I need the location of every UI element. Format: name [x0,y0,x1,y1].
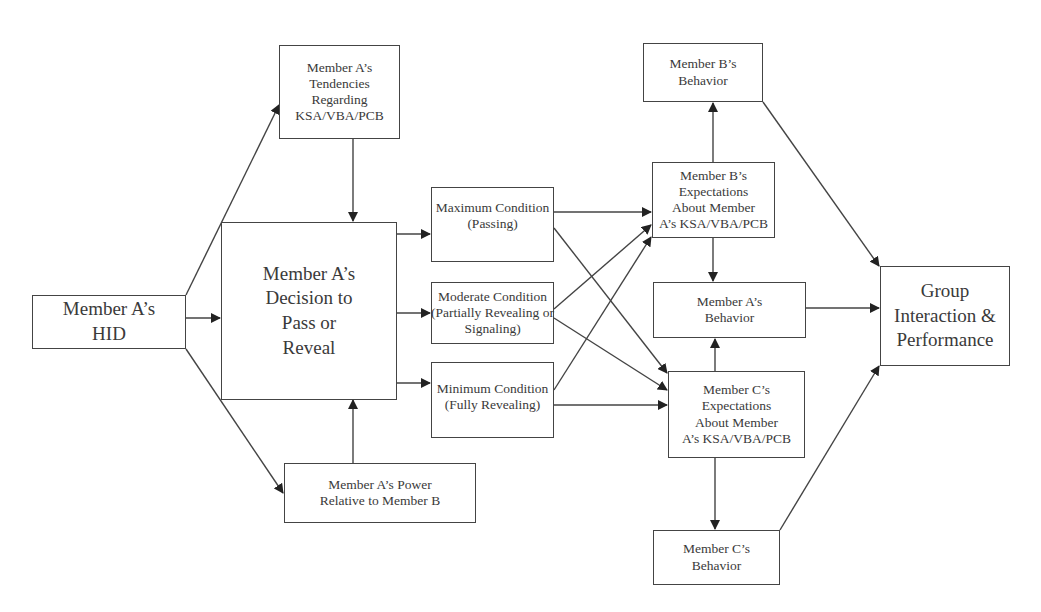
node-b-exp-line: Expectations [679,184,749,200]
edge-moderate-cexp [554,318,667,390]
edge-moderate-bexp [554,225,651,309]
node-c-behavior: Member C’s Behavior [653,530,780,585]
node-tendencies-line: Tendencies [309,76,370,92]
node-group: Group Interaction & Performance [880,266,1010,366]
node-moderate-line: (Partially Revealing or [431,305,554,321]
node-b-exp-line: Member B’s [680,168,747,184]
edge-min-bexp [554,237,651,390]
node-hid: Member A’s HID [32,295,186,349]
node-b-exp-line: About Member [672,200,755,216]
node-moderate-line: Signaling) [464,321,520,337]
node-tendencies: Member A’s Tendencies Regarding KSA/VBA/… [279,45,400,139]
node-b-behavior-line: Behavior [678,73,728,89]
node-power-line: Member A’s Power [328,477,432,493]
node-b-exp-line: A’s KSA/VBA/PCB [659,216,768,232]
node-b-behavior: Member B’s Behavior [643,43,763,102]
node-tendencies-line: KSA/VBA/PCB [295,108,384,124]
node-b-expectations: Member B’s Expectations About Member A’s… [652,162,775,238]
node-tendencies-line: Regarding [311,92,367,108]
node-hid-line: Member A’s [63,297,155,322]
node-decision-line: Decision to [265,286,352,311]
node-moderate-line: Moderate Condition [438,289,547,305]
node-decision-line: Pass or [282,311,336,336]
node-group-line: Performance [896,328,993,353]
node-hid-line: HID [92,322,126,347]
node-c-exp-line: A’s KSA/VBA/PCB [682,431,791,447]
node-c-expectations: Member C’s Expectations About Member A’s… [668,371,805,458]
node-c-exp-line: Member C’s [703,382,770,398]
node-group-line: Interaction & [894,304,996,329]
node-max-line: (Passing) [467,216,517,232]
node-c-behavior-line: Behavior [692,558,742,574]
node-c-exp-line: Expectations [702,398,772,414]
node-c-exp-line: About Member [695,415,778,431]
node-decision-line: Member A’s [263,262,355,287]
node-min-condition: Minimum Condition (Fully Revealing) [431,362,554,438]
node-b-behavior-line: Member B’s [669,56,736,72]
node-tendencies-line: Member A’s [307,60,373,76]
node-max-condition: Maximum Condition (Passing) [431,187,554,262]
edge-bbehavior-group [763,102,879,266]
node-power-line: Relative to Member B [320,493,440,509]
node-power: Member A’s Power Relative to Member B [284,463,476,523]
node-decision-line: Reveal [283,336,336,361]
node-moderate-condition: Moderate Condition (Partially Revealing … [431,282,554,344]
node-decision: Member A’s Decision to Pass or Reveal [221,222,397,400]
node-a-behavior-line: Behavior [705,310,755,326]
node-group-line: Group [921,279,970,304]
node-max-line: Maximum Condition [436,200,550,216]
node-a-behavior-line: Member A’s [697,294,763,310]
node-a-behavior: Member A’s Behavior [653,282,806,338]
node-min-line: (Fully Revealing) [445,397,541,413]
node-c-behavior-line: Member C’s [683,541,750,557]
node-min-line: Minimum Condition [437,381,548,397]
